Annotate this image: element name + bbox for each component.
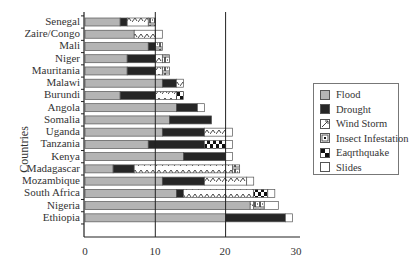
legend-item-slides: Slides [320,162,362,173]
bar-segment-drought [127,67,155,75]
bar-segment-drought [226,214,286,222]
bar-segment-eaqrthquake [205,140,226,148]
bar-segment-flood [85,30,134,38]
bar-segment-wind-storm [250,202,254,210]
y-tick-label: Madagascar [27,162,80,174]
wind-storm-swatch-icon [320,119,330,129]
legend-item-wind-storm: Wind Storm [320,118,387,129]
bar-burundi [85,91,183,99]
bar-segment-flood [85,128,162,136]
bar-segment-flood [85,55,127,63]
y-tick-label: South Africa [24,186,80,198]
bar-segment-drought [183,153,225,161]
stacked-bar-chart: SenegalZaire/CongoMaliNigerMauritaniaMal… [0,0,418,270]
bar-segment-drought [148,42,155,50]
y-tick-label: Senegal [45,15,80,27]
bar-segment-wind-storm [134,165,232,173]
bar-segment-flood [85,79,162,87]
bar-angola [85,104,205,112]
bar-segment-slides [226,140,233,148]
bar-segment-flood [85,165,113,173]
bar-segment-slides [247,177,254,185]
insect-infestation-swatch-icon [320,133,330,143]
bar-segment-drought [162,79,176,87]
flood-swatch-icon [320,90,330,100]
bar-segment-insect-infestation [254,202,265,210]
bar-segment-flood [85,189,176,197]
bar-segment-slides [285,214,292,222]
y-tick-label: Zaire/Congo [24,27,80,39]
bar-zaire-congo [85,30,162,38]
y-axis-title: Countries [17,120,32,180]
bar-segment-drought [162,177,204,185]
y-tick-label: Malawi [46,76,80,88]
bar-segment-wind-storm [155,55,162,63]
bar-malawi [85,79,183,87]
y-tick-label: Ethiopia [43,211,80,223]
bar-segment-eaqrthquake [254,189,268,197]
y-tick-label: Angola [48,101,80,113]
bar-mali [85,42,162,50]
y-tick-label: Burundi [44,88,80,100]
bar-segment-insect-infestation [155,42,162,50]
bar-tanzania [85,140,233,148]
bar-south-africa [85,189,275,197]
y-tick-label: Tanzania [40,137,80,149]
bar-segment-slides [226,128,233,136]
bar-mauritania [85,67,169,75]
y-tick-label: Niger [55,52,80,64]
bar-nigeria [85,202,278,210]
bar-segment-flood [85,67,127,75]
bar-segment-eaqrthquake [176,91,183,99]
drought-swatch-icon [320,104,330,114]
bar-segment-drought [120,18,127,26]
x-tick-label: 10 [150,245,161,257]
bar-segment-slides [155,30,162,38]
bar-segment-wind-storm [176,79,183,87]
bar-segment-drought [176,189,183,197]
bar-segment-insect-infestation [148,18,155,26]
legend-item-flood: Flood [320,89,361,100]
bar-senegal [85,18,155,26]
bar-segment-flood [85,153,183,161]
y-tick-label: Mali [59,39,80,51]
x-tick-label: 0 [82,245,88,257]
legend-item-insect-infestation: Insect Infestation [320,133,409,144]
y-tick-label: Mauritania [32,64,80,76]
bar-niger [85,55,169,63]
x-tick-label: 30 [291,245,302,257]
earthquake-swatch-icon [320,148,330,158]
bar-uganda [85,128,233,136]
bar-segment-flood [85,91,120,99]
bar-segment-flood [85,42,148,50]
bar-segment-flood [85,18,120,26]
y-tick-label: Uganda [46,125,80,137]
x-tick-label: 20 [220,245,231,257]
bar-segment-slides [197,104,204,112]
bar-segment-slides [264,202,278,210]
y-tick-label: Kenya [51,150,80,162]
bar-segment-insect-infestation [233,165,240,173]
bar-madagascar [85,165,240,173]
bar-segment-drought [176,104,197,112]
bar-segment-wind-storm [205,128,226,136]
bar-segment-drought [120,91,155,99]
bar-segment-flood [85,116,169,124]
bar-segment-drought [113,165,134,173]
bar-segment-flood [85,140,148,148]
slides-swatch-icon [320,162,330,172]
bar-segment-drought [162,128,204,136]
bar-segment-drought [127,55,155,63]
bar-segment-wind-storm [183,189,253,197]
bar-mozambique [85,177,254,185]
legend: Flood Drought Wind Storm Insect Infestat… [313,83,399,175]
bar-segment-wind-storm [155,67,162,75]
legend-item-earthquake: Eaqrthquake [320,147,389,158]
bar-segment-insect-infestation [162,55,169,63]
bar-segment-flood [85,104,176,112]
bar-segment-drought [148,140,204,148]
legend-item-drought: Drought [320,104,371,115]
bar-segment-drought [169,116,211,124]
bar-somalia [85,116,212,124]
bar-segment-flood [85,177,162,185]
